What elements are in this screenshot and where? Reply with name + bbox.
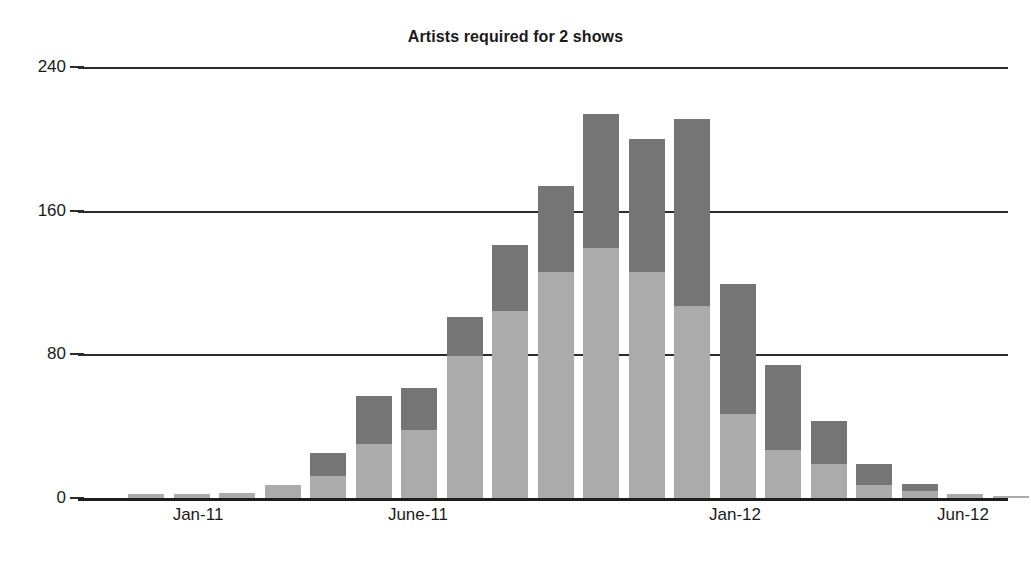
bar-column[interactable]: [492, 245, 528, 498]
bar-segment-show-2: [447, 317, 483, 357]
bar-segment-show-2: [629, 139, 665, 272]
bar-segment-show-1: [219, 493, 255, 498]
bar-segment-show-2: [583, 114, 619, 249]
y-tick-label: 160: [10, 201, 66, 221]
bar-column[interactable]: [265, 485, 301, 498]
y-tick-label: 80: [10, 344, 66, 364]
bar-segment-show-1: [811, 464, 847, 498]
bar-segment-show-1: [765, 450, 801, 498]
bar-column[interactable]: [811, 421, 847, 498]
x-tick-label: Jan-12: [709, 505, 761, 525]
bar-segment-show-2: [902, 484, 938, 491]
chart-title: Artists required for 2 shows: [0, 28, 1031, 46]
bar-column[interactable]: [947, 494, 983, 498]
bar-segment-show-2: [538, 186, 574, 272]
bar-column[interactable]: [538, 186, 574, 498]
bar-column[interactable]: [219, 493, 255, 498]
gridline: [78, 67, 1008, 69]
bar-column[interactable]: [856, 464, 892, 498]
bar-segment-show-1: [492, 311, 528, 498]
bar-column[interactable]: [629, 139, 665, 498]
bar-segment-show-1: [856, 485, 892, 498]
plot-area: [78, 67, 1008, 498]
bar-column[interactable]: [310, 453, 346, 498]
bar-segment-show-1: [993, 496, 1029, 498]
bar-column[interactable]: [128, 494, 164, 498]
bar-segment-show-1: [902, 491, 938, 498]
bar-segment-show-1: [174, 494, 210, 498]
y-tick-label: 240: [10, 57, 66, 77]
bar-column[interactable]: [583, 114, 619, 498]
bar-column[interactable]: [993, 496, 1029, 498]
x-tick-label: June-11: [388, 505, 448, 525]
bar-column[interactable]: [401, 388, 437, 498]
bar-segment-show-2: [492, 245, 528, 311]
x-tick-label: Jun-12: [937, 505, 989, 525]
bar-segment-show-2: [811, 421, 847, 464]
bar-segment-show-2: [356, 396, 392, 444]
bar-segment-show-1: [265, 485, 301, 498]
bar-segment-show-2: [856, 464, 892, 486]
bar-segment-show-2: [765, 365, 801, 449]
bar-segment-show-1: [356, 444, 392, 498]
bar-segment-show-1: [629, 272, 665, 498]
bar-column[interactable]: [674, 119, 710, 498]
chart-container: Artists required for 2 shows 080160240 J…: [0, 0, 1031, 573]
bar-column[interactable]: [174, 494, 210, 498]
bar-segment-show-1: [447, 356, 483, 498]
bar-segment-show-1: [310, 476, 346, 498]
bar-column[interactable]: [720, 284, 756, 498]
x-tick-label: Jan-11: [173, 505, 224, 525]
x-axis: Jan-11June-11Jan-12Jun-12: [0, 505, 1031, 545]
bar-segment-show-2: [674, 119, 710, 306]
bar-segment-show-1: [720, 414, 756, 498]
bar-column[interactable]: [902, 484, 938, 498]
x-axis-baseline: [78, 498, 1008, 501]
bar-segment-show-1: [401, 430, 437, 498]
bar-segment-show-1: [947, 494, 983, 498]
bar-column[interactable]: [356, 396, 392, 498]
bar-column[interactable]: [447, 317, 483, 498]
bar-segment-show-2: [720, 284, 756, 413]
bar-segment-show-1: [583, 248, 619, 498]
bar-segment-show-1: [674, 306, 710, 498]
bar-segment-show-2: [310, 453, 346, 476]
bar-segment-show-1: [538, 272, 574, 498]
bar-segment-show-1: [128, 494, 164, 498]
bar-segment-show-2: [401, 388, 437, 429]
bar-column[interactable]: [765, 365, 801, 498]
